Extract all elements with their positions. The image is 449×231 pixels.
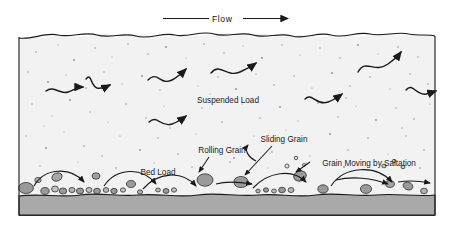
bed-grain — [163, 189, 169, 194]
bed-grain — [76, 188, 83, 194]
bed-grain — [171, 188, 176, 192]
rolling-grain — [197, 174, 213, 186]
sliding-grain-label: Sliding Grain — [261, 135, 308, 144]
suspended-load-label: Suspended Load — [197, 96, 259, 105]
suspended-bed-grain — [294, 156, 297, 159]
diagram-canvas: Flow — [0, 0, 449, 231]
bed-grain — [92, 173, 100, 179]
bed-grain — [156, 188, 161, 192]
bed-grain — [19, 183, 34, 194]
bed-grain — [137, 190, 142, 194]
bed-grain — [41, 188, 49, 195]
bed-grain — [360, 185, 371, 194]
bed-load-label: Bed Load — [140, 168, 176, 177]
bed-grain — [272, 189, 277, 193]
bed-grain — [288, 188, 294, 193]
bed-grain — [279, 187, 286, 193]
bed-grain — [126, 180, 135, 187]
bed-grain — [103, 188, 109, 193]
bed-grain — [256, 189, 260, 193]
bed-grain — [94, 188, 101, 194]
bed-grain — [318, 185, 328, 193]
flow-direction-indicator: Flow — [163, 14, 288, 24]
bed-grain — [263, 188, 268, 192]
bed-grain — [86, 188, 92, 193]
bed-grain — [120, 188, 125, 192]
suspended-bed-grain — [285, 164, 289, 168]
bed-grain — [52, 186, 59, 192]
flow-label: Flow — [212, 14, 233, 24]
bed-grain — [59, 188, 67, 194]
sediment-transport-figure: Flow — [0, 0, 449, 231]
bed-grain — [69, 187, 75, 192]
stream-bed — [19, 194, 435, 215]
bed-grain — [111, 188, 117, 193]
saltation-label: Grain Moving by Saltation — [322, 159, 416, 168]
rolling-grain-label: Rolling Grain — [198, 146, 246, 155]
bed-grain — [421, 188, 428, 194]
